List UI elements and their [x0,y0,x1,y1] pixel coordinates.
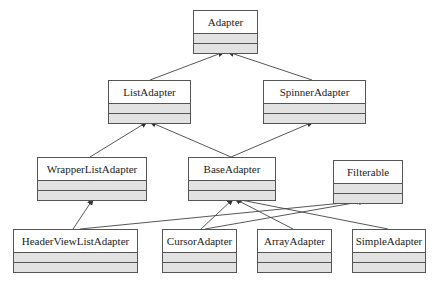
class-name: WrapperListAdapter [38,158,146,181]
edge-baseadapter-to-listadapter [150,122,231,157]
class-name: SpinnerAdapter [264,81,365,104]
class-box-cursoradapter: CursorAdapter [162,229,237,273]
edge-arrayadapter-to-baseadapter [235,199,293,229]
class-name: SimpleAdapter [353,230,425,253]
class-name: ListAdapter [109,81,190,104]
class-box-headerviewlistadapter: HeaderViewListAdapter [13,229,138,273]
class-box-simpleadapter: SimpleAdapter [352,229,426,273]
class-name: HeaderViewListAdapter [14,230,137,253]
class-name: Filterable [334,161,402,184]
edge-headerviewlistadapter-to-wrapperlistadapter [73,199,93,229]
class-name: BaseAdapter [189,158,275,181]
attributes-compartment [258,253,331,263]
methods-compartment [353,263,425,272]
methods-compartment [258,263,331,272]
class-name: CursorAdapter [163,230,236,253]
class-diagram: AdapterListAdapterSpinnerAdapterWrapperL… [0,0,438,288]
class-box-filterable: Filterable [333,160,403,204]
edge-spinneradapter-to-adapter [228,52,312,80]
attributes-compartment [264,104,365,114]
attributes-compartment [353,253,425,263]
methods-compartment [194,44,257,53]
edge-baseadapter-to-spinneradapter [231,122,313,157]
edge-headerviewlistadapter-to-filterable [80,201,363,229]
class-box-arrayadapter: ArrayAdapter [257,229,332,273]
attributes-compartment [334,184,402,194]
attributes-compartment [109,104,190,114]
class-box-spinneradapter: SpinnerAdapter [263,80,366,124]
edge-listadapter-to-adapter [150,52,224,80]
class-name: Adapter [194,11,257,34]
class-box-wrapperlistadapter: WrapperListAdapter [37,157,147,201]
attributes-compartment [163,253,236,263]
methods-compartment [163,263,236,272]
methods-compartment [264,114,365,123]
methods-compartment [334,194,402,203]
methods-compartment [14,263,137,272]
attributes-compartment [14,253,137,263]
methods-compartment [109,114,190,123]
class-name: ArrayAdapter [258,230,331,253]
methods-compartment [189,191,275,200]
attributes-compartment [194,34,257,44]
methods-compartment [38,191,146,200]
attributes-compartment [38,181,146,191]
class-box-listadapter: ListAdapter [108,80,191,124]
attributes-compartment [189,181,275,191]
edge-wrapperlistadapter-to-listadapter [90,122,147,157]
class-box-adapter: Adapter [193,10,258,54]
class-box-baseadapter: BaseAdapter [188,157,276,201]
